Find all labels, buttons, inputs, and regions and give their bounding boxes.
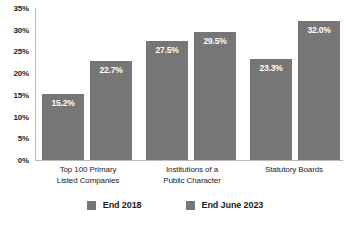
y-axis-tick: 35% (14, 4, 29, 13)
bar-end-2018[interactable]: 23.3% (250, 59, 292, 160)
y-axis-tick: 30% (14, 25, 29, 34)
y-axis-tick: 25% (14, 47, 29, 56)
x-axis-label-line-1: Top 100 Primary (36, 164, 140, 175)
y-axis-tick: 20% (14, 69, 29, 78)
bar-value-label: 22.7% (90, 65, 132, 75)
bar-group-top-100-primary-listed-companies: 15.2% 22.7% (42, 8, 132, 160)
y-axis-tick: 0% (18, 156, 29, 165)
x-axis-label-line-1: Institutions of a (140, 164, 244, 175)
x-axis-label-institutions-of-a-public-character: Institutions of a Public Character (140, 164, 244, 186)
legend-label: End June 2023 (202, 200, 264, 210)
x-axis-line (35, 160, 343, 161)
x-axis-label-line-1: Statutory Boards (242, 164, 346, 175)
bar-group-statutory-boards: 23.3% 32.0% (250, 8, 340, 160)
y-axis: 35% 30% 25% 20% 15% 10% 5% 0% (0, 0, 33, 170)
legend-item-end-june-2023[interactable]: End June 2023 (186, 200, 264, 210)
bar-chart: 35% 30% 25% 20% 15% 10% 5% 0% 15.2% 22.7… (0, 0, 350, 227)
legend-label: End 2018 (103, 200, 142, 210)
bar-value-label: 27.5% (146, 45, 188, 55)
bars-layer: 15.2% 22.7% 27.5% 29.5% 23.3% (36, 8, 343, 160)
legend-swatch-icon (186, 201, 195, 210)
legend-item-end-2018[interactable]: End 2018 (87, 200, 142, 210)
bar-end-june-2023[interactable]: 29.5% (194, 32, 236, 160)
bar-group-institutions-of-a-public-character: 27.5% 29.5% (146, 8, 236, 160)
chart-legend: End 2018 End June 2023 (0, 196, 350, 214)
bar-end-2018[interactable]: 15.2% (42, 94, 84, 160)
x-axis-label-line-2: Listed Companies (36, 175, 140, 186)
bar-value-label: 15.2% (42, 98, 84, 108)
bar-value-label: 23.3% (250, 63, 292, 73)
y-axis-tick: 15% (14, 90, 29, 99)
x-axis-category-labels: Top 100 Primary Listed Companies Institu… (36, 164, 343, 192)
legend-swatch-icon (87, 201, 96, 210)
y-axis-tick: 5% (18, 134, 29, 143)
bar-end-2018[interactable]: 27.5% (146, 41, 188, 160)
x-axis-label-statutory-boards: Statutory Boards (242, 164, 346, 175)
bar-value-label: 29.5% (194, 36, 236, 46)
bar-end-june-2023[interactable]: 22.7% (90, 61, 132, 160)
bar-end-june-2023[interactable]: 32.0% (298, 21, 340, 160)
y-axis-tick: 10% (14, 112, 29, 121)
bar-value-label: 32.0% (298, 25, 340, 35)
plot-area: 35% 30% 25% 20% 15% 10% 5% 0% 15.2% 22.7… (0, 0, 350, 170)
x-axis-label-top-100-primary-listed-companies: Top 100 Primary Listed Companies (36, 164, 140, 186)
x-axis-label-line-2: Public Character (140, 175, 244, 186)
